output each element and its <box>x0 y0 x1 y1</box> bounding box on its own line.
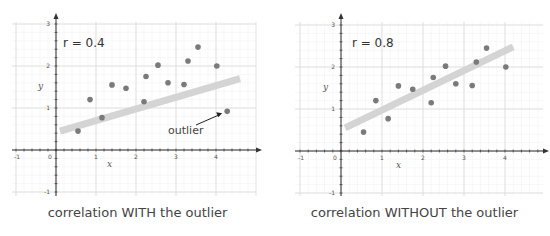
data-point <box>143 74 149 80</box>
x-axis-arrow-icon <box>543 149 549 154</box>
correlation-value-label: r = 0.4 <box>63 36 105 50</box>
y-tick-label: -1 <box>44 188 50 195</box>
data-point <box>99 115 105 121</box>
trendline <box>60 79 240 132</box>
x-tick-label: -1 <box>298 154 304 161</box>
data-point <box>484 45 490 51</box>
data-point <box>214 63 220 69</box>
y-axis-arrow-icon <box>339 13 344 19</box>
x-axis-arrow-icon <box>256 148 262 153</box>
plot-area-without-outlier: -101234-1123xy <box>275 0 550 205</box>
data-point <box>195 44 201 50</box>
data-point <box>410 86 416 92</box>
y-axis-arrow-icon <box>54 13 59 19</box>
y-tick-label: 2 <box>331 63 335 70</box>
chart-without-outlier: -101234-1123xy r = 0.8 correlation WITHO… <box>275 0 550 236</box>
x-axis-label: x <box>396 160 401 170</box>
data-point <box>373 98 379 104</box>
data-point <box>428 100 434 106</box>
x-axis-label: x <box>107 159 112 169</box>
data-point <box>469 83 475 89</box>
x-tick-label: 3 <box>462 154 466 161</box>
data-point <box>141 99 147 105</box>
data-point <box>75 128 81 134</box>
correlation-value-label: r = 0.8 <box>352 36 394 50</box>
chart-caption: correlation WITHOUT the outlier <box>277 205 550 220</box>
trendline <box>345 47 513 128</box>
y-tick-label: 1 <box>46 104 50 111</box>
y-tick-label: -1 <box>329 189 335 196</box>
data-point <box>503 64 509 70</box>
x-tick-label: 4 <box>503 154 507 161</box>
y-tick-label: 1 <box>331 105 335 112</box>
data-point <box>185 58 191 64</box>
chart-caption: correlation WITH the outlier <box>0 205 275 220</box>
y-tick-label: 2 <box>46 62 50 69</box>
data-point <box>396 83 402 89</box>
x-tick-label: 2 <box>421 154 425 161</box>
y-axis-label: y <box>322 82 329 92</box>
data-point <box>474 59 480 65</box>
data-point <box>430 75 436 81</box>
data-point <box>453 81 459 87</box>
y-axis-label: y <box>37 81 44 91</box>
x-tick-label: 3 <box>174 153 178 160</box>
x-tick-label: 0 <box>48 153 52 160</box>
data-point <box>385 116 391 122</box>
x-tick-label: 0 <box>333 154 337 161</box>
x-tick-label: 2 <box>134 153 138 160</box>
x-tick-label: 4 <box>214 153 218 160</box>
data-point <box>165 80 171 86</box>
outlier-label: outlier <box>168 124 203 137</box>
data-point <box>109 82 115 88</box>
y-tick-label: 3 <box>46 20 50 27</box>
data-point <box>87 97 93 103</box>
data-point <box>123 85 129 91</box>
x-tick-label: -1 <box>14 153 20 160</box>
data-point <box>224 109 230 115</box>
plot-area-with-outlier: -101234-1123xy <box>0 0 275 205</box>
x-tick-label: 1 <box>94 153 98 160</box>
chart-with-outlier: -101234-1123xy r = 0.4 outlier correlati… <box>0 0 275 236</box>
y-tick-label: 3 <box>331 21 335 28</box>
x-tick-label: 1 <box>380 154 384 161</box>
data-point <box>181 82 187 88</box>
data-point <box>155 62 161 68</box>
data-point <box>443 63 449 69</box>
data-point <box>361 129 367 135</box>
